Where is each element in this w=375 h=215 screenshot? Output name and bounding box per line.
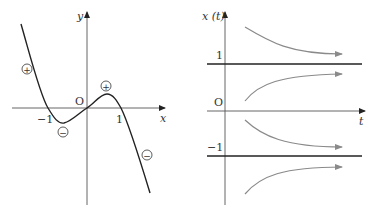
svg-text:+: + bbox=[23, 65, 31, 75]
trajectory-between-zero-one bbox=[245, 74, 342, 101]
tick-one: 1 bbox=[116, 113, 123, 126]
trajectory-below-neg-one bbox=[245, 167, 342, 194]
level-neg-one-label: −1 bbox=[207, 141, 223, 154]
minus-sign-icon: − bbox=[58, 127, 68, 138]
cubic-curve bbox=[21, 24, 150, 193]
trajectory-graph: x (t) t 1 O −1 bbox=[202, 10, 365, 205]
minus-sign-icon: − bbox=[142, 150, 152, 161]
svg-text:−: − bbox=[59, 128, 67, 138]
origin-label: O bbox=[75, 95, 84, 108]
tick-neg-one: −1 bbox=[37, 113, 53, 126]
svg-text:+: + bbox=[102, 82, 110, 92]
plus-sign-icon: + bbox=[101, 81, 111, 92]
plus-sign-icon: + bbox=[22, 64, 32, 75]
function-graph: y x O −1 1 + − + − bbox=[12, 10, 167, 205]
level-one-label: 1 bbox=[216, 49, 223, 62]
xt-axis-label: x (t) bbox=[202, 10, 225, 23]
trajectory-above-one bbox=[245, 27, 342, 54]
t-axis-label: t bbox=[359, 115, 364, 128]
y-axis-label: y bbox=[76, 10, 84, 23]
svg-text:−: − bbox=[143, 151, 151, 161]
trajectory-between-neg-one-zero bbox=[245, 120, 342, 147]
x-axis-label: x bbox=[160, 112, 167, 125]
origin-label: O bbox=[214, 96, 223, 109]
phase-diagram: y x O −1 1 + − + − x (t) t bbox=[0, 0, 375, 215]
